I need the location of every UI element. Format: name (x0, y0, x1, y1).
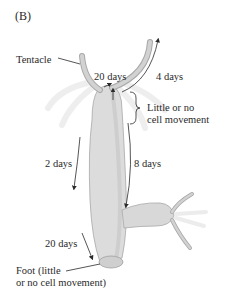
arrow-body-right (126, 123, 131, 206)
foot-label-2: or no cell movement) (16, 277, 106, 289)
hydra-diagram (0, 0, 231, 297)
panel-label: (B) (15, 10, 31, 22)
tentacle-leader (58, 58, 80, 64)
lower-20-days-label: 20 days (45, 238, 77, 250)
arrow-body-left (74, 137, 80, 188)
foot-label-1: Foot (little (16, 265, 61, 277)
body-8-days-label: 8 days (134, 158, 161, 170)
tentacle-label: Tentacle (16, 54, 51, 66)
hydra-bud (122, 203, 174, 228)
arrow-lower-left (82, 233, 92, 258)
tentacle-4-days-label: 4 days (156, 71, 183, 83)
foot-leader (66, 264, 100, 271)
hydra-foot (99, 256, 123, 268)
little-movement-label-1: Little or no (147, 102, 194, 114)
bud-tentacles (172, 194, 206, 248)
little-movement-label-2: cell movement (147, 114, 209, 126)
body-2-days-label: 2 days (45, 158, 72, 170)
head-20-days-label: 20 days (94, 71, 126, 83)
